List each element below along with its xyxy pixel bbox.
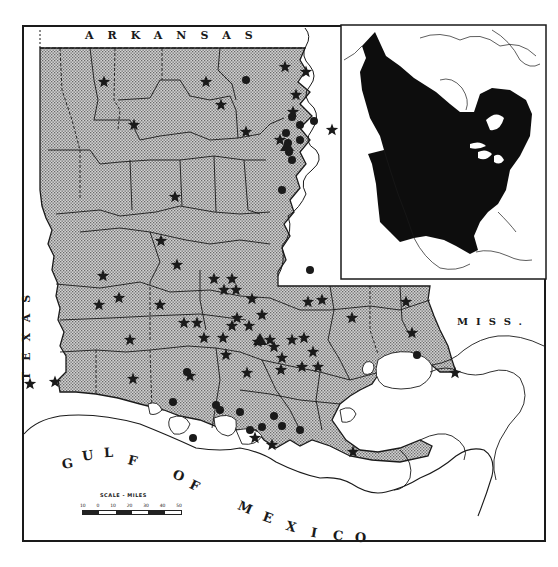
gulf-letter: C: [332, 527, 344, 543]
record-dot-icon: [413, 351, 421, 359]
label-mississippi: MISS.: [457, 316, 530, 327]
record-dot-icon: [296, 121, 304, 129]
record-dot-icon: [242, 76, 250, 84]
record-dot-icon: [183, 368, 191, 376]
record-dot-icon: [246, 426, 254, 434]
gulf-letter: G: [61, 455, 75, 472]
scale-tick: 30: [143, 503, 149, 508]
scale-tick: 50: [176, 503, 182, 508]
map-canvas: [0, 0, 558, 567]
record-dot-icon: [278, 186, 286, 194]
record-dot-icon: [236, 408, 244, 416]
record-dot-icon: [288, 113, 296, 121]
gulf-letter: U: [81, 447, 94, 463]
scale-title: SCALE - MILES: [100, 492, 147, 498]
scale-tick: 0: [97, 503, 100, 508]
scale-bar: [82, 510, 182, 515]
label-arkansas: ARKANSAS: [85, 29, 267, 42]
record-dot-icon: [296, 136, 304, 144]
record-dot-icon: [258, 423, 266, 431]
scale-tick: 10: [110, 503, 116, 508]
gulf-letter: O: [355, 530, 367, 545]
record-dot-icon: [310, 117, 318, 125]
record-star-icon: [326, 124, 338, 136]
record-dot-icon: [296, 426, 304, 434]
scale-ticks: 10 0 10 20 30 40 50: [80, 503, 182, 508]
record-dot-icon: [306, 266, 314, 274]
record-dot-icon: [270, 412, 278, 420]
record-dot-icon: [169, 398, 177, 406]
record-dot-icon: [288, 156, 296, 164]
scale-tick: 40: [160, 503, 166, 508]
record-dot-icon: [216, 406, 224, 414]
label-texas: TEXAS: [20, 284, 33, 380]
scale-tick: 20: [127, 503, 133, 508]
record-dot-icon: [282, 129, 290, 137]
record-dot-icon: [278, 422, 286, 430]
scale-tick: 10: [80, 503, 86, 508]
gulf-letter: L: [103, 445, 113, 461]
record-dot-icon: [189, 434, 197, 442]
